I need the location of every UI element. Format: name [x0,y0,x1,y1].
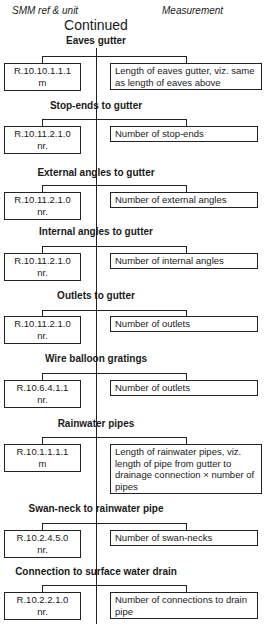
smm-ref-box: R.10.11.2.1.0 nr. [4,126,81,154]
smm-ref-box: R.10.2.4.5.0 nr. [4,530,81,558]
smm-ref-box: R.10.11.2.1.0 nr. [4,316,81,344]
smm-ref-box: R.10.10.1.1.1 m [4,63,81,91]
smm-ref-box: R.10.6.4.1.1 nr. [4,380,81,408]
unit: nr. [5,140,80,152]
section-title: Swan-neck to rainwater pipe [0,503,192,514]
measurement-box: Number of stop-ends [110,126,258,142]
unit: nr. [5,330,80,342]
section-title: Connection to surface water drain [0,566,192,577]
section-title: Rainwater pipes [0,418,192,429]
unit: m [5,77,80,89]
measurement-box: Number of outlets [110,380,258,396]
smm-ref: R.10.11.2.1.0 [5,194,80,206]
smm-ref-box: R.10.1.1.1.1 m [4,444,81,472]
smm-ref-box: R.10.11.2.1.0 nr. [4,253,81,281]
measurement-box: Number of internal angles [110,253,258,269]
measurement-box: Length of eaves gutter, viz. same as len… [110,63,262,90]
flow-spine-line [96,48,97,624]
measurement-box: Number of external angles [110,192,258,208]
smm-ref-box: R.10.2.2.1.0 nr. [4,592,81,620]
measurement-box: Number of outlets [110,316,258,332]
column-header-measurement: Measurement [162,5,223,16]
section-title: Stop-ends to gutter [0,100,192,111]
measurement-box: Number of swan-necks [110,530,258,546]
continued-heading: Continued [0,17,192,33]
section-title: Outlets to gutter [0,290,192,301]
unit: nr. [5,394,80,406]
column-header-smm-ref: SMM ref & unit [12,5,78,16]
smm-ref-box: R.10.11.2.1.0 nr. [4,192,81,220]
section-title: Internal angles to gutter [0,226,192,237]
smm-ref: R.10.2.2.1.0 [5,594,80,606]
unit: nr. [5,267,80,279]
section-title: External angles to gutter [0,167,192,178]
smm-ref: R.10.6.4.1.1 [5,382,80,394]
smm-ref: R.10.1.1.1.1 [5,446,80,458]
section-title: Wire balloon gratings [0,353,192,364]
smm-ref: R.10.11.2.1.0 [5,318,80,330]
section-title: Eaves gutter [0,35,192,46]
unit: nr. [5,606,80,618]
measurement-box: Number of connections to drain pipe [110,592,258,619]
smm-ref: R.10.11.2.1.0 [5,128,80,140]
unit: m [5,458,80,470]
smm-ref: R.10.11.2.1.0 [5,255,80,267]
smm-ref: R.10.10.1.1.1 [5,65,80,77]
measurement-box: Length of rainwater pipes, viz. length o… [110,444,262,494]
smm-ref: R.10.2.4.5.0 [5,532,80,544]
unit: nr. [5,544,80,556]
unit: nr. [5,206,80,218]
